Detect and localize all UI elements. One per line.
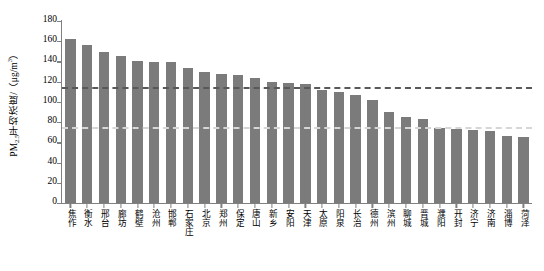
x-axis-tick-mark xyxy=(204,203,205,208)
x-axis-label-slot: 阳泉 xyxy=(331,209,348,269)
bar[interactable] xyxy=(418,119,428,203)
x-axis-label-slot: 聊城 xyxy=(398,209,415,269)
x-axis-label-slot: 鹤壁 xyxy=(129,209,146,269)
x-axis-tick xyxy=(414,203,431,208)
x-axis-label-slot: 济南 xyxy=(482,209,499,269)
x-axis-tick-mark xyxy=(523,203,524,208)
x-axis-tick xyxy=(314,203,331,208)
bar[interactable] xyxy=(518,137,528,203)
x-axis-tick xyxy=(498,203,515,208)
x-axis-tick-mark xyxy=(338,203,339,208)
x-axis-label-slot: 济宁 xyxy=(465,209,482,269)
bar[interactable] xyxy=(250,78,260,203)
bar-slot xyxy=(112,21,129,203)
x-axis-label: 鹤壁 xyxy=(133,209,142,269)
bar[interactable] xyxy=(317,90,327,203)
bar[interactable] xyxy=(233,75,243,203)
bar-slot xyxy=(431,21,448,203)
bar[interactable] xyxy=(132,61,142,203)
x-axis-label: 衡水 xyxy=(83,209,92,269)
bar-slot xyxy=(465,21,482,203)
y-axis-tick-label: 120 xyxy=(43,75,57,85)
bar[interactable] xyxy=(65,39,75,203)
x-axis-label: 天津 xyxy=(301,209,310,269)
bar[interactable] xyxy=(199,72,209,203)
x-axis-label-slot: 滨州 xyxy=(381,209,398,269)
y-axis-tick-label: 40 xyxy=(48,156,58,166)
bar[interactable] xyxy=(350,95,360,203)
x-axis-label-slot: 晋城 xyxy=(414,209,431,269)
x-axis-tick xyxy=(213,203,230,208)
x-axis-tick-mark xyxy=(506,203,507,208)
x-axis-tick-mark xyxy=(489,203,490,208)
x-axis-tick xyxy=(247,203,264,208)
x-axis-tick xyxy=(347,203,364,208)
x-axis-label: 北京 xyxy=(200,209,209,269)
bar[interactable] xyxy=(434,128,444,203)
x-axis-labels: 焦作衡水邢台廊坊鹤壁沧州邯郸石家庄北京郑州保定唐山新乡安阳天津太原阳泉长治德州滨… xyxy=(62,209,532,269)
bar[interactable] xyxy=(468,130,478,203)
x-axis-label: 石家庄 xyxy=(184,209,193,269)
bar-slot xyxy=(482,21,499,203)
x-axis-label: 济南 xyxy=(486,209,495,269)
x-axis-tick xyxy=(146,203,163,208)
bar-slot xyxy=(230,21,247,203)
y-axis-tick-label: 140 xyxy=(43,54,57,64)
x-axis-tick xyxy=(331,203,348,208)
x-axis-tick-mark xyxy=(238,203,239,208)
reference-line-grade-ii-standard xyxy=(62,127,532,129)
x-axis-label-slot: 沧州 xyxy=(146,209,163,269)
x-axis-label: 长治 xyxy=(351,209,360,269)
bar-slot xyxy=(347,21,364,203)
x-axis-tick-mark xyxy=(389,203,390,208)
bar[interactable] xyxy=(149,62,159,203)
bar[interactable] xyxy=(216,74,226,203)
x-axis-tick-mark xyxy=(120,203,121,208)
bar[interactable] xyxy=(502,136,512,203)
bar[interactable] xyxy=(485,131,495,203)
y-axis-tick-label: 180 xyxy=(43,14,57,24)
bar[interactable] xyxy=(367,100,377,203)
x-axis-tick xyxy=(280,203,297,208)
x-axis-tick-mark xyxy=(473,203,474,208)
x-axis-label-slot: 郑州 xyxy=(213,209,230,269)
x-axis-tick xyxy=(465,203,482,208)
x-axis-label-slot: 太原 xyxy=(314,209,331,269)
bar[interactable] xyxy=(384,112,394,203)
bar[interactable] xyxy=(451,129,461,203)
x-axis-tick-mark xyxy=(154,203,155,208)
plot-area: 020406080100120140160180 xyxy=(62,21,532,203)
y-axis-tick-label: 20 xyxy=(48,176,58,186)
x-axis-tick xyxy=(364,203,381,208)
x-axis-tick-mark xyxy=(456,203,457,208)
x-axis-tick-mark xyxy=(271,203,272,208)
x-axis-label: 聊城 xyxy=(402,209,411,269)
bar-slot xyxy=(247,21,264,203)
x-axis-tick-mark xyxy=(221,203,222,208)
x-axis-label-slot: 天津 xyxy=(297,209,314,269)
x-axis-tick-mark xyxy=(254,203,255,208)
x-axis-label-slot: 焦作 xyxy=(62,209,79,269)
x-axis-label: 邢台 xyxy=(100,209,109,269)
y-axis-title-subscript: 2.5 xyxy=(13,134,20,142)
bar-slot xyxy=(196,21,213,203)
bar[interactable] xyxy=(300,84,310,203)
x-axis-label: 唐山 xyxy=(251,209,260,269)
bar[interactable] xyxy=(166,62,176,203)
y-axis-title-suffix: ） xyxy=(10,49,20,59)
x-axis-label-slot: 开封 xyxy=(448,209,465,269)
x-axis-label: 安阳 xyxy=(284,209,293,269)
bar[interactable] xyxy=(116,56,126,203)
x-axis-label: 滨州 xyxy=(385,209,394,269)
x-axis-label: 郑州 xyxy=(217,209,226,269)
bar[interactable] xyxy=(283,83,293,203)
x-axis-tick xyxy=(196,203,213,208)
bar[interactable] xyxy=(401,117,411,203)
bar[interactable] xyxy=(82,45,92,203)
bar[interactable] xyxy=(267,82,277,203)
bar-slot xyxy=(263,21,280,203)
x-axis-label: 济宁 xyxy=(469,209,478,269)
bar[interactable] xyxy=(334,92,344,203)
x-axis-tick xyxy=(482,203,499,208)
x-axis-tick xyxy=(381,203,398,208)
